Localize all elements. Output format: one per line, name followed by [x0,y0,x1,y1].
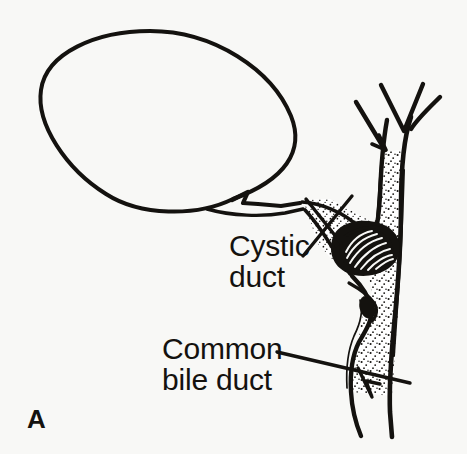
cystic-duct-label-line2: duct [229,260,286,293]
anatomical-illustration: Cystic duct Common bile duct A [0,0,467,454]
annotation-common-bile-duct: Common bile duct [162,332,283,396]
figure-panel-a: Cystic duct Common bile duct A [0,0,467,454]
cystic-duct-label-line1: Cystic [229,229,310,262]
common-bile-duct-label-line1: Common [162,332,283,365]
panel-label: A [27,404,46,434]
common-bile-duct-label-line2: bile duct [162,363,273,396]
